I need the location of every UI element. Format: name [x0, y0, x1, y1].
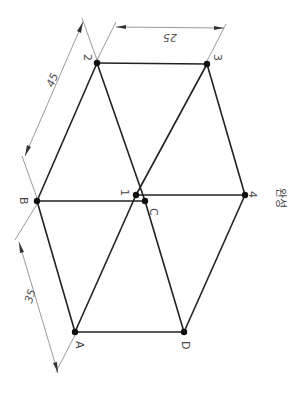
edge-C-D: [145, 201, 184, 332]
dim-25-label: 25: [163, 31, 177, 44]
point-C: [142, 198, 148, 204]
label-C: C: [147, 208, 160, 216]
point-D: [181, 329, 187, 335]
label-B: B: [17, 197, 30, 205]
dim-35-label: 35: [22, 288, 39, 305]
point-B: [34, 198, 40, 204]
point-1: [133, 192, 139, 198]
label-4: 4: [246, 191, 259, 198]
edge-4-D: [184, 195, 245, 332]
caption-complete: 완성: [274, 188, 287, 208]
edge-2-3: [97, 63, 207, 64]
label-2: 2: [81, 54, 94, 61]
edge-3-1: [136, 64, 207, 195]
geometry-diagram: 25 45 35: [0, 0, 294, 401]
edge-1-A: [75, 195, 136, 332]
label-1: 1: [118, 189, 131, 196]
dimension-top: 25: [97, 22, 226, 61]
dimension-upper-left: 45: [22, 18, 97, 198]
label-3: 3: [211, 54, 224, 61]
points: [34, 60, 248, 335]
edges: [37, 63, 245, 332]
label-A: A: [73, 341, 86, 349]
point-A: [72, 329, 78, 335]
dim-45-label: 45: [44, 71, 61, 89]
point-3: [204, 61, 210, 67]
edge-3-4: [207, 64, 245, 195]
edge-B-A: [37, 201, 75, 332]
label-D: D: [179, 341, 192, 349]
edge-2-C: [97, 63, 145, 201]
